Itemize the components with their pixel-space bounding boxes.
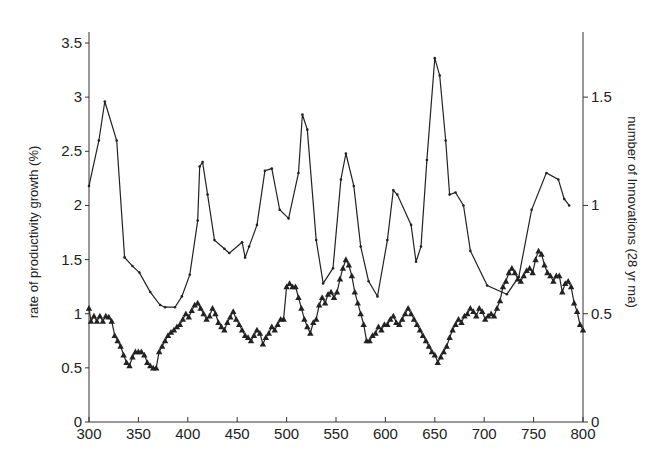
y-tick-label: 2 bbox=[74, 196, 82, 213]
dot-marker bbox=[98, 139, 101, 142]
triangle-marker bbox=[275, 321, 281, 327]
right-y-axis-title: number of Innovations (28 yr ma) bbox=[625, 116, 640, 307]
y2-tick-label: 1 bbox=[591, 196, 599, 213]
x-tick-label: 550 bbox=[323, 425, 348, 442]
dot-marker bbox=[434, 57, 437, 60]
triangle-marker bbox=[399, 316, 405, 322]
triangle-marker bbox=[446, 334, 452, 340]
y-tick-label: 1 bbox=[74, 305, 82, 322]
triangle-marker bbox=[565, 278, 571, 284]
triangle-marker bbox=[322, 300, 328, 306]
triangle-marker bbox=[230, 308, 236, 314]
triangle-marker bbox=[212, 311, 218, 317]
triangle-marker bbox=[580, 327, 586, 333]
dot-marker bbox=[248, 245, 251, 248]
dot-marker bbox=[264, 169, 267, 172]
left-y-axis-ticks: 00.511.522.533.5 bbox=[61, 34, 89, 430]
triangle-marker bbox=[298, 305, 304, 311]
triangle-marker bbox=[443, 343, 449, 349]
x-tick-label: 750 bbox=[521, 425, 546, 442]
dot-marker bbox=[332, 267, 335, 270]
dot-marker bbox=[315, 239, 318, 242]
dot-marker bbox=[196, 219, 199, 222]
triangle-marker bbox=[260, 341, 266, 347]
triangle-marker bbox=[194, 300, 200, 306]
innovations-series bbox=[88, 57, 571, 309]
right-y-axis-ticks: 00.511.5 bbox=[583, 88, 612, 430]
triangle-marker bbox=[417, 327, 423, 333]
dot-marker bbox=[352, 185, 355, 188]
dot-marker bbox=[174, 306, 177, 309]
triangle-marker bbox=[266, 330, 272, 336]
triangle-marker bbox=[503, 278, 509, 284]
dot-marker bbox=[181, 295, 184, 298]
dot-marker bbox=[213, 239, 216, 242]
triangle-marker bbox=[426, 343, 432, 349]
x-tick-label: 500 bbox=[274, 425, 299, 442]
dot-marker bbox=[223, 247, 226, 250]
triangle-marker bbox=[411, 316, 417, 322]
dot-marker bbox=[104, 100, 107, 103]
dot-marker bbox=[410, 224, 413, 227]
dot-marker bbox=[486, 284, 489, 287]
left-y-axis-title: rate of productivity growth (%) bbox=[26, 146, 41, 319]
dot-marker bbox=[563, 198, 566, 201]
triangle-marker bbox=[206, 313, 212, 319]
triangle-marker bbox=[521, 273, 527, 279]
triangle-marker bbox=[313, 316, 319, 322]
dot-marker bbox=[345, 152, 348, 155]
y2-tick-label: 0.5 bbox=[591, 305, 612, 322]
triangle-marker bbox=[568, 283, 574, 289]
dot-marker bbox=[420, 245, 423, 248]
triangle-marker bbox=[162, 338, 168, 344]
triangle-marker bbox=[494, 305, 500, 311]
dot-marker bbox=[469, 250, 472, 253]
triangle-marker bbox=[189, 307, 195, 313]
triangle-marker bbox=[541, 262, 547, 268]
triangle-marker bbox=[111, 332, 117, 338]
dot-marker bbox=[278, 208, 281, 211]
triangle-marker bbox=[334, 289, 340, 295]
triangle-marker bbox=[452, 321, 458, 327]
x-tick-label: 650 bbox=[422, 425, 447, 442]
triangle-marker bbox=[550, 278, 556, 284]
triangle-marker bbox=[449, 327, 455, 333]
triangle-marker bbox=[346, 262, 352, 268]
triangle-marker bbox=[337, 276, 343, 282]
y2-tick-label: 0 bbox=[591, 413, 599, 430]
dot-marker bbox=[159, 304, 162, 307]
dot-marker bbox=[164, 306, 167, 309]
dot-marker bbox=[454, 191, 457, 194]
triangle-marker bbox=[295, 294, 301, 300]
triangle-marker bbox=[360, 321, 366, 327]
x-tick-label: 600 bbox=[373, 425, 398, 442]
dot-marker bbox=[131, 265, 134, 268]
x-tick-label: 450 bbox=[225, 425, 250, 442]
triangle-marker bbox=[440, 348, 446, 354]
triangle-marker bbox=[117, 343, 123, 349]
dot-marker bbox=[367, 280, 370, 283]
triangle-marker bbox=[574, 308, 580, 314]
dot-marker bbox=[123, 256, 126, 259]
x-tick-label: 700 bbox=[472, 425, 497, 442]
triangle-marker bbox=[91, 313, 97, 319]
dot-marker bbox=[206, 193, 209, 196]
dot-marker bbox=[506, 293, 509, 296]
dot-marker bbox=[88, 185, 91, 188]
x-axis-ticks: 300350400450500550600650700750800 bbox=[76, 417, 595, 442]
triangle-marker bbox=[120, 352, 126, 358]
triangle-marker bbox=[526, 265, 532, 271]
triangle-marker bbox=[559, 289, 565, 295]
triangle-marker bbox=[532, 256, 538, 262]
triangle-marker bbox=[200, 311, 206, 317]
triangle-marker bbox=[402, 311, 408, 317]
x-tick-label: 350 bbox=[126, 425, 151, 442]
y2-tick-label: 1.5 bbox=[591, 88, 612, 105]
dot-marker bbox=[340, 178, 343, 181]
triangle-marker bbox=[114, 338, 120, 344]
triangle-marker bbox=[180, 316, 186, 322]
dot-marker bbox=[301, 113, 304, 116]
triangle-marker bbox=[331, 294, 337, 300]
dot-marker bbox=[557, 178, 560, 181]
dot-marker bbox=[198, 165, 201, 168]
